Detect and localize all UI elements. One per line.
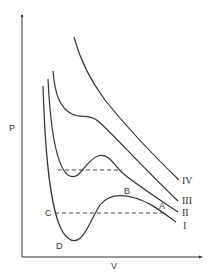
- curve-label-iii: III: [182, 195, 192, 206]
- x-axis-arrow-icon: [199, 256, 203, 259]
- isotherm-iv: [74, 37, 179, 180]
- isotherm-i: [43, 86, 176, 241]
- point-label-c: C: [45, 208, 52, 218]
- isotherm-ii: [48, 79, 178, 212]
- curve-label-ii: II: [182, 207, 189, 218]
- pv-diagram: P V C D B A IV III II I: [0, 0, 209, 277]
- y-axis-label: P: [9, 123, 15, 133]
- point-label-a: A: [159, 201, 165, 211]
- point-label-d: D: [56, 241, 63, 251]
- curve-label-i: I: [183, 220, 186, 231]
- curve-label-iv: IV: [182, 175, 193, 186]
- x-axis-label: V: [111, 261, 117, 271]
- point-label-b: B: [124, 186, 130, 196]
- y-axis-arrow-icon: [21, 15, 23, 17]
- isotherm-iii: [53, 71, 178, 201]
